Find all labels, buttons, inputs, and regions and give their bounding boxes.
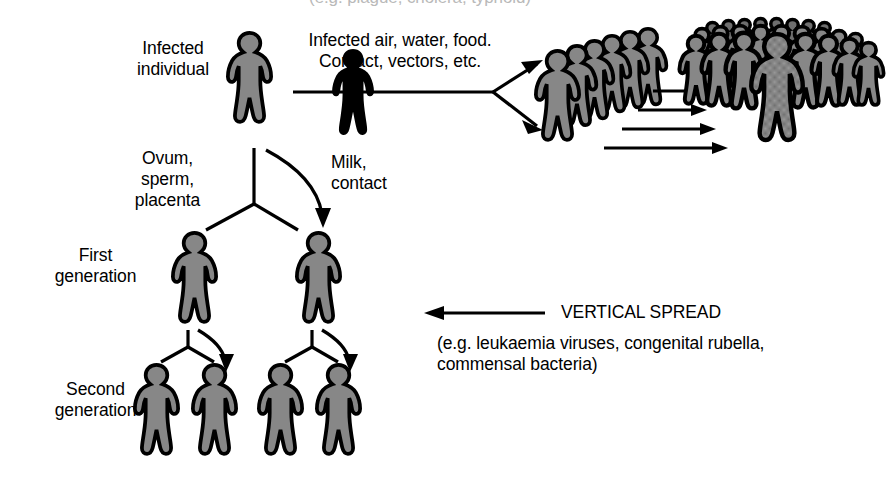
horizontal-spread-arrow xyxy=(293,64,537,126)
label-ovum-sperm-placenta: Ovum, sperm, placenta xyxy=(110,148,225,211)
vertical-spread-arrow xyxy=(424,306,545,320)
first-generation-group xyxy=(173,233,340,322)
second-generation-group xyxy=(135,365,360,454)
label-first-generation: First generation xyxy=(28,245,163,287)
infected-individual-icon xyxy=(228,33,271,122)
label-second-generation: Second generation xyxy=(28,379,163,421)
large-crowd-group xyxy=(679,19,883,140)
diagram-canvas: (e.g. plague, cholera, typhoid) Infected… xyxy=(0,0,895,486)
cut-off-caption: (e.g. plague, cholera, typhoid) xyxy=(250,0,590,8)
label-vertical-spread: VERTICAL SPREAD xyxy=(561,302,861,323)
label-infected-individual: Infected individual xyxy=(118,38,228,80)
label-milk-contact: Milk, contact xyxy=(331,152,441,194)
small-crowd-group xyxy=(536,29,667,140)
label-horizontal-transmission: Infected air, water, food. Contact, vect… xyxy=(275,30,525,72)
label-vertical-spread-examples: (e.g. leukaemia viruses, congenital rube… xyxy=(437,333,887,375)
